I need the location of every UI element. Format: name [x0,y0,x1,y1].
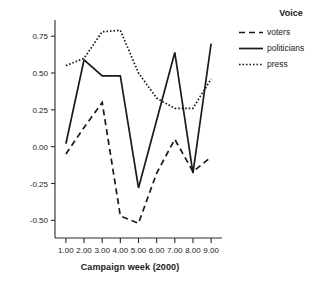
x-tick-label: 6.00 [149,246,165,255]
x-tick-label: 3.00 [94,246,110,255]
legend-label-press: press [267,59,288,70]
legend-label-politicians: politicians [267,43,304,54]
y-tick-label: -0.50 [30,216,49,225]
x-axis: 1.002.003.004.005.006.007.008.009.00 [55,238,222,255]
y-tick-label: 0.00 [32,143,48,152]
x-axis-title: Campaign week (2000) [40,262,220,272]
chart-container: 0.750.500.250.00-0.25-0.50 1.002.003.004… [0,0,330,288]
x-tick-label: 1.00 [58,246,74,255]
series-line-voters [66,102,211,223]
x-tick-label: 4.00 [113,246,129,255]
legend-key-solid-icon [238,43,264,54]
x-tick-label: 8.00 [185,246,201,255]
y-tick-group: 0.750.500.250.00-0.25-0.50 [30,32,55,225]
legend: Voice voters politicians press [238,8,330,75]
x-tick-label: 7.00 [167,246,183,255]
y-tick-label: 0.75 [32,32,48,41]
series-group [66,30,211,223]
x-tick-label: 5.00 [131,246,147,255]
y-tick-label: -0.25 [30,180,49,189]
legend-title: Voice [252,8,330,18]
legend-item-politicians[interactable]: politicians [238,43,330,54]
y-tick-label: 0.25 [32,106,48,115]
y-axis: 0.750.500.250.00-0.25-0.50 [30,20,55,238]
legend-key-dashed-icon [238,27,264,38]
legend-item-voters[interactable]: voters [238,27,330,38]
x-tick-group: 1.002.003.004.005.006.007.008.009.00 [58,238,219,255]
plot-area: 0.750.500.250.00-0.25-0.50 1.002.003.004… [0,0,232,288]
x-tick-label: 9.00 [203,246,219,255]
series-line-politicians [66,44,211,188]
legend-item-press[interactable]: press [238,59,330,70]
y-tick-label: 0.50 [32,69,48,78]
series-line-press [66,30,211,108]
x-tick-label: 2.00 [76,246,92,255]
legend-label-voters: voters [267,27,290,38]
plot-svg: 0.750.500.250.00-0.25-0.50 1.002.003.004… [0,0,232,260]
legend-key-dotted-icon [238,59,264,70]
